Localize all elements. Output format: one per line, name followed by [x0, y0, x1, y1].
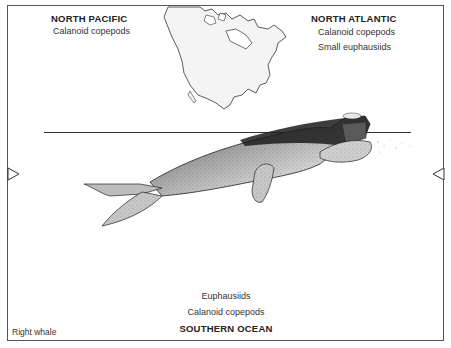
prey-north-atlantic-2: Small euphausiids — [318, 42, 391, 52]
right-marker-triangle-icon — [431, 166, 445, 182]
species-label: Right whale — [12, 327, 56, 337]
region-title-north-atlantic: NORTH ATLANTIC — [311, 13, 397, 24]
left-marker-triangle-icon — [7, 166, 21, 182]
prey-southern-ocean-2: Calanoid copepods — [187, 307, 264, 317]
prey-north-pacific-1: Calanoid copepods — [53, 26, 130, 36]
region-title-north-pacific: NORTH PACIFIC — [51, 13, 127, 24]
north-america-map — [160, 5, 300, 110]
prey-southern-ocean-1: Euphausiids — [201, 291, 250, 301]
right-whale-illustration — [80, 112, 420, 227]
prey-north-atlantic-1: Calanoid copepods — [318, 27, 395, 37]
region-title-southern-ocean: SOUTHERN OCEAN — [179, 323, 272, 334]
